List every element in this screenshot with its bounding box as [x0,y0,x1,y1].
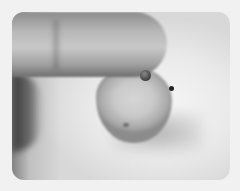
object-stem [140,70,151,81]
object-dent [123,123,129,127]
photo-frame [12,12,230,180]
finger-crease [52,20,60,70]
object-hole [169,86,174,91]
fingertip [12,12,167,77]
